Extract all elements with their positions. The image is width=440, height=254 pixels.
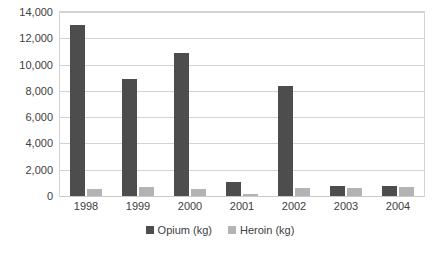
x-tick-label: 2003: [334, 200, 358, 213]
chart-legend: Opium (kg)Heroin (kg): [0, 224, 440, 236]
x-tick-label: 2001: [230, 200, 254, 213]
bar-heroin-2002: [295, 188, 310, 196]
y-tick-label: 8,000: [25, 85, 53, 96]
bar-opium-2001: [226, 182, 241, 196]
legend-swatch-icon: [228, 226, 236, 234]
bar-heroin-2000: [191, 189, 206, 196]
x-tick-label: 2004: [386, 200, 410, 213]
legend-swatch-icon: [146, 226, 154, 234]
bar-opium-2002: [278, 86, 293, 196]
x-axis: 1998199920002001200220032004: [60, 200, 424, 216]
bar-group-2003: [320, 12, 372, 196]
bar-opium-1999: [122, 79, 137, 196]
bar-group-2004: [372, 12, 424, 196]
x-tick-label: 2000: [178, 200, 202, 213]
y-tick-label: 0: [47, 191, 53, 202]
y-tick-label: 4,000: [25, 138, 53, 149]
y-axis: 02,0004,0006,0008,00010,00012,00014,000: [0, 11, 53, 197]
y-tick-label: 12,000: [19, 33, 53, 44]
bar-chart: 02,0004,0006,0008,00010,00012,00014,000 …: [0, 0, 440, 254]
bar-opium-1998: [70, 25, 85, 196]
bars-layer: [60, 12, 424, 196]
bar-opium-2003: [330, 186, 345, 196]
x-tick-label: 1999: [126, 200, 150, 213]
legend-label: Opium (kg): [158, 224, 212, 236]
legend-item-opium[interactable]: Opium (kg): [146, 224, 212, 236]
bar-heroin-2001: [243, 194, 258, 196]
y-tick-label: 10,000: [19, 59, 53, 70]
bar-opium-2004: [382, 186, 397, 196]
bar-group-2000: [164, 12, 216, 196]
bar-group-2002: [268, 12, 320, 196]
y-tick-label: 6,000: [25, 112, 53, 123]
bar-heroin-1998: [87, 189, 102, 196]
legend-label: Heroin (kg): [240, 224, 294, 236]
bar-opium-2000: [174, 53, 189, 196]
bar-heroin-2003: [347, 188, 362, 196]
x-tick-label: 1998: [74, 200, 98, 213]
y-tick-label: 14,000: [19, 7, 53, 18]
bar-heroin-1999: [139, 187, 154, 196]
bar-group-1999: [112, 12, 164, 196]
gridline: [60, 196, 424, 197]
bar-group-2001: [216, 12, 268, 196]
legend-item-heroin[interactable]: Heroin (kg): [228, 224, 294, 236]
bar-heroin-2004: [399, 187, 414, 196]
y-tick-label: 2,000: [25, 164, 53, 175]
bar-group-1998: [60, 12, 112, 196]
x-tick-label: 2002: [282, 200, 306, 213]
